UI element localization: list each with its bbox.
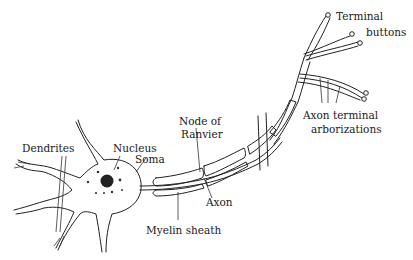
label-terminal-buttons-2: buttons xyxy=(366,26,406,38)
label-myelin-sheath: Myelin sheath xyxy=(146,224,222,236)
label-node-of-ranvier-1: Node of xyxy=(179,115,222,127)
soma-body xyxy=(14,120,141,252)
label-dendrites: Dendrites xyxy=(22,142,74,154)
label-axon-terminal-1: Axon terminal xyxy=(302,109,379,121)
nucleus-shape xyxy=(101,175,114,188)
label-node-of-ranvier-2: Ranvier xyxy=(181,128,224,140)
leader-lines xyxy=(56,78,340,232)
terminal-arbor xyxy=(298,13,368,102)
label-axon-terminal-2: arborizations xyxy=(311,123,382,135)
label-terminal-buttons-1: Terminal xyxy=(336,10,384,22)
label-soma: Soma xyxy=(135,153,165,165)
neuron-illustration: Dendrites Nucleus Soma Node of Ranvier A… xyxy=(0,0,413,260)
label-axon: Axon xyxy=(205,196,233,208)
axon-shaft xyxy=(140,58,310,196)
neuron-diagram: Dendrites Nucleus Soma Node of Ranvier A… xyxy=(0,0,413,260)
